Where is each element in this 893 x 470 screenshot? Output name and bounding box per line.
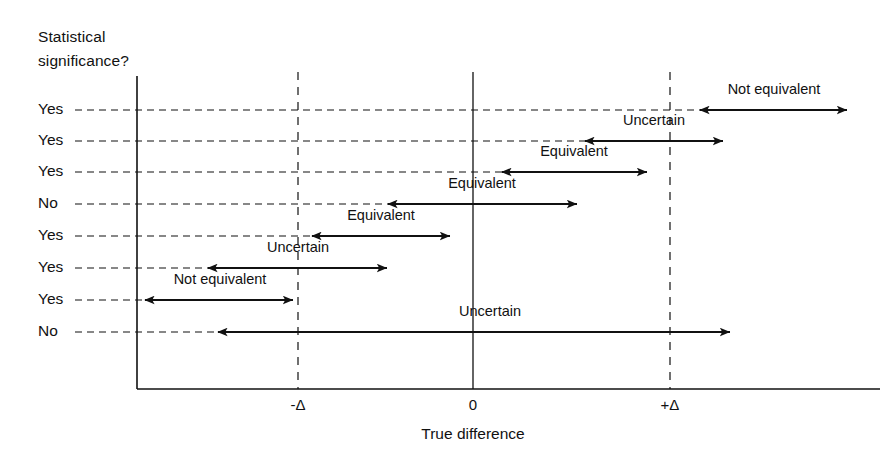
conclusion-label-8: Uncertain (459, 303, 521, 319)
y-axis-label-4: No (38, 194, 58, 212)
conclusion-label-2: Uncertain (623, 112, 685, 128)
interval-arrows (145, 110, 847, 332)
y-axis-label-2: Yes (38, 131, 63, 149)
y-axis-label-1: Yes (38, 100, 63, 118)
conclusion-label-5: Equivalent (347, 207, 415, 223)
conclusion-label-1: Not equivalent (728, 81, 821, 97)
x-tick-label-2: +Δ (661, 396, 680, 413)
y-axis-label-5: Yes (38, 226, 63, 244)
plot-canvas (0, 0, 893, 470)
x-tick-label-0: -Δ (290, 396, 305, 413)
vertical-reference-lines (298, 72, 670, 389)
conclusion-label-3: Equivalent (540, 143, 608, 159)
conclusion-label-7: Not equivalent (174, 271, 267, 287)
y-axis-label-8: No (38, 322, 58, 340)
y-axis-label-3: Yes (38, 162, 63, 180)
conclusion-label-4: Equivalent (448, 175, 516, 191)
conclusion-label-6: Uncertain (267, 239, 329, 255)
x-axis-title: True difference (421, 425, 524, 443)
y-axis-label-6: Yes (38, 258, 63, 276)
y-axis-label-7: Yes (38, 290, 63, 308)
equivalence-testing-figure: Statistical significance? YesYesYesNoYes… (0, 0, 893, 470)
x-tick-label-1: 0 (469, 396, 477, 413)
